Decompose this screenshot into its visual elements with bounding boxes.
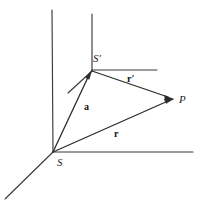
point-label-s-prime: S′ [93, 52, 102, 64]
vector-label-r: r [114, 128, 119, 139]
vector-label-a: a [84, 101, 89, 112]
depth-axis-s-line [5, 152, 53, 199]
point-label-p: P [178, 93, 186, 105]
vertical-axis-s-line [52, 10, 53, 152]
vector-diagram-figure: S′ P S a r r′ [0, 0, 199, 209]
vector-r-shaft [53, 101, 168, 152]
vector-a-shaft [53, 74, 90, 152]
vector-label-r-prime-mark: ′ [131, 73, 134, 84]
vector-label-r-prime: r′ [127, 73, 134, 84]
diagram-canvas: S′ P S a r r′ [0, 0, 199, 209]
vector-a-arrowhead [86, 70, 92, 79]
point-label-s: S [57, 156, 63, 168]
